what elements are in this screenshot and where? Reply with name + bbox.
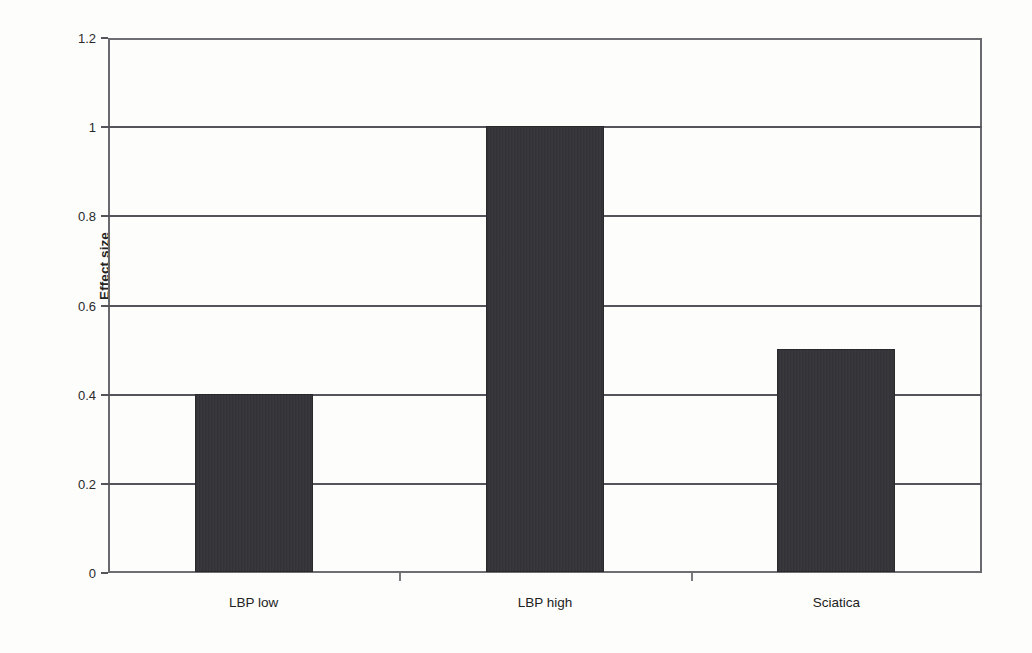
y-axis-tick-label: 0 — [89, 566, 96, 581]
y-axis-tick — [101, 483, 108, 485]
x-axis-tick — [691, 573, 693, 581]
y-axis-tick-label: 1.2 — [78, 31, 96, 46]
y-axis-tick — [101, 394, 108, 396]
y-axis-tick-label: 0.4 — [78, 387, 96, 402]
x-axis-tick — [399, 573, 401, 581]
y-axis-tick — [101, 215, 108, 217]
y-axis-tick-label: 1 — [89, 120, 96, 135]
plot-area: 00.20.40.60.811.2 — [108, 38, 982, 573]
y-axis-tick-label: 0.8 — [78, 209, 96, 224]
y-axis-tick — [101, 305, 108, 307]
chart-figure: Effect size 00.20.40.60.811.2 LBP lowLBP… — [0, 0, 1032, 653]
y-axis-tick-label: 0.2 — [78, 476, 96, 491]
y-axis-tick — [101, 572, 108, 574]
bar — [486, 126, 604, 572]
plot-frame-top — [108, 38, 982, 40]
y-axis-tick — [101, 126, 108, 128]
bar — [777, 349, 895, 572]
x-axis-category-label: LBP high — [518, 595, 573, 610]
bar — [195, 394, 313, 572]
x-axis-category-label: Sciatica — [813, 595, 860, 610]
y-axis-tick — [101, 37, 108, 39]
y-axis-tick-label: 0.6 — [78, 298, 96, 313]
x-axis-category-label: LBP low — [229, 595, 278, 610]
